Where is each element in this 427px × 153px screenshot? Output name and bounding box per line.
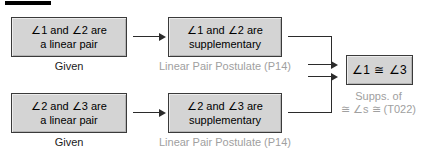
- top-rule-divider: [5, 1, 51, 5]
- connector-elbow-2-head: [331, 73, 338, 81]
- connector-arrow-2-head: [159, 109, 166, 117]
- caption-conclusion-line-2: ≅ ∠s ≅ (T022): [330, 103, 427, 116]
- flow-box-line-1: ∠1 and ∠2 are: [31, 23, 107, 37]
- flow-box-line-2: supplementary: [189, 37, 261, 51]
- flow-box-conclusion: ∠1 ≅ ∠3: [346, 55, 413, 85]
- caption-linear-pair-postulate-1: Linear Pair Postulate (P14): [158, 60, 292, 73]
- flow-box-line-2: supplementary: [189, 113, 261, 127]
- caption-given-2: Given: [11, 136, 127, 149]
- flow-box-linear-pair-2: ∠2 and ∠3 are a linear pair: [11, 93, 127, 133]
- caption-linear-pair-postulate-2: Linear Pair Postulate (P14): [158, 136, 292, 149]
- flow-box-supplementary-2: ∠2 and ∠3 are supplementary: [168, 93, 282, 133]
- connector-arrow-2-line: [133, 112, 160, 113]
- flow-box-line-1: ∠2 and ∠3 are: [31, 99, 107, 113]
- flow-box-line-2: a linear pair: [40, 113, 97, 127]
- flow-box-line-1: ∠2 and ∠3 are: [187, 99, 263, 113]
- flow-box-linear-pair-1: ∠1 and ∠2 are a linear pair: [11, 17, 127, 57]
- connector-elbow-2-horizontal: [288, 112, 332, 113]
- connector-arrow-1-head: [159, 33, 166, 41]
- proof-flowchart: ∠1 and ∠2 are a linear pair Given ∠1 and…: [0, 0, 427, 153]
- flow-box-line-2: a linear pair: [40, 37, 97, 51]
- flow-box-line-1: ∠1 and ∠2 are: [187, 23, 263, 37]
- caption-conclusion-line-1: Supps. of: [330, 90, 427, 103]
- connector-elbow-1-entry: [308, 64, 332, 65]
- connector-elbow-2-entry: [308, 76, 332, 77]
- connector-elbow-1-head: [331, 61, 338, 69]
- connector-elbow-1-horizontal: [288, 36, 332, 37]
- flow-box-supplementary-1: ∠1 and ∠2 are supplementary: [168, 17, 282, 57]
- caption-given-1: Given: [11, 60, 127, 73]
- connector-arrow-1-line: [133, 36, 160, 37]
- flow-box-line-1: ∠1 ≅ ∠3: [352, 63, 408, 77]
- caption-conclusion: Supps. of ≅ ∠s ≅ (T022): [330, 90, 427, 116]
